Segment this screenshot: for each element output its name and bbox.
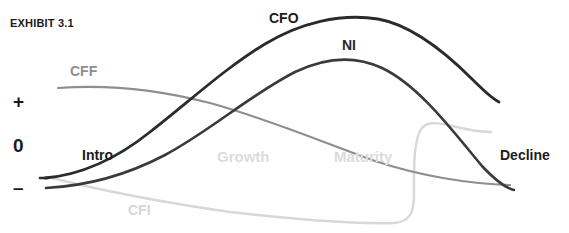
stage-label-decline: Decline xyxy=(500,148,550,162)
stage-label-growth: Growth xyxy=(217,149,270,164)
series-label-ni: NI xyxy=(342,38,356,52)
series-label-cfi: CFI xyxy=(128,203,151,217)
series-label-cff: CFF xyxy=(70,64,97,78)
exhibit-title: EXHIBIT 3.1 xyxy=(10,18,74,29)
series-label-cfo: CFO xyxy=(269,11,299,25)
exhibit-figure: EXHIBIT 3.1 + 0 – CFO NI CFF CFI Intro D… xyxy=(0,0,569,233)
stage-label-maturity: Maturity xyxy=(334,149,392,164)
axis-label-zero: 0 xyxy=(13,136,24,155)
series-line-cff xyxy=(58,87,510,185)
series-line-cfi xyxy=(48,123,491,223)
axis-label-positive: + xyxy=(13,92,24,111)
axis-label-negative: – xyxy=(13,178,24,197)
lifecycle-chart xyxy=(0,0,569,233)
stage-label-intro: Intro xyxy=(82,148,113,162)
